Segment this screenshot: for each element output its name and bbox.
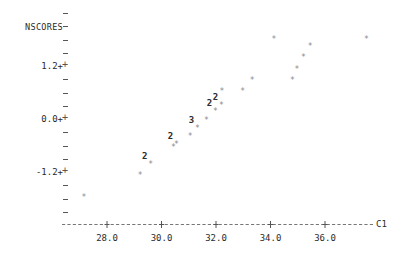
y-axis-minor-tick: [61, 40, 69, 41]
y-axis-minor-tick: [61, 93, 69, 94]
data-point-marker: *: [80, 194, 88, 202]
data-point-count-label: 2: [141, 152, 149, 161]
y-axis-minor-tick: [61, 132, 69, 133]
y-axis-tick-label: 0.0+: [41, 114, 63, 124]
data-point-marker: *: [217, 102, 225, 110]
data-point-marker: *: [293, 66, 301, 74]
y-axis-minor-tick: [61, 199, 69, 200]
data-point-marker: *: [147, 161, 155, 169]
data-point-count-label: 3: [187, 116, 195, 125]
x-axis-tick-label: 28.0: [87, 233, 127, 243]
data-point-marker: *: [362, 36, 370, 44]
y-axis-minor-tick: [61, 79, 69, 80]
data-point-count-label: 2: [166, 132, 174, 141]
y-axis-minor-tick: [61, 53, 69, 54]
x-axis-tick-label: 30.0: [142, 233, 182, 243]
normal-scores-scatter-plot: 1.2+0.0+-1.2+NSCORES28.030.032.034.036.0…: [0, 0, 394, 254]
y-axis-title: NSCORES: [25, 22, 63, 32]
x-axis-title: C1: [376, 219, 387, 229]
data-point-marker: *: [248, 77, 256, 85]
y-axis-minor-tick: [61, 146, 69, 147]
y-axis-minor-tick: [61, 106, 69, 107]
data-point-marker: *: [299, 54, 307, 62]
y-axis-tick-label: 1.2+: [41, 61, 63, 71]
data-point-marker: *: [288, 77, 296, 85]
y-axis-tick-label: -1.2+: [36, 167, 63, 177]
y-axis-minor-tick: [61, 185, 69, 186]
data-point-marker: *: [239, 88, 247, 96]
x-axis-tick-label: 34.0: [251, 233, 291, 243]
x-axis-line: [62, 220, 375, 229]
x-axis-tick-label: 36.0: [305, 233, 345, 243]
data-point-marker: *: [202, 117, 210, 125]
data-point-marker: *: [186, 133, 194, 141]
data-point-marker: *: [270, 36, 278, 44]
y-axis-minor-tick: [61, 212, 69, 213]
data-point-marker: *: [136, 172, 144, 180]
y-axis-minor-tick: [61, 13, 69, 14]
data-point-marker: *: [306, 43, 314, 51]
data-point-marker: *: [218, 88, 226, 96]
data-point-marker: *: [172, 141, 180, 149]
data-point-marker: *: [193, 125, 201, 133]
y-axis-minor-tick: [61, 159, 69, 160]
x-axis-tick-label: 32.0: [196, 233, 236, 243]
